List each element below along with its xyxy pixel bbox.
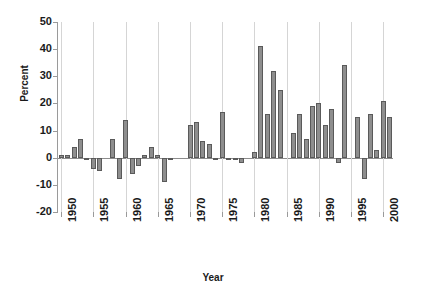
x-axis-tick-mark xyxy=(93,212,94,217)
x-axis-tick-mark xyxy=(190,212,191,217)
bar xyxy=(323,125,328,158)
bar xyxy=(381,101,386,158)
bar xyxy=(252,152,257,157)
bar xyxy=(355,117,360,158)
y-axis-tick-mark xyxy=(53,158,58,159)
y-axis-tick-mark xyxy=(53,22,58,23)
bar xyxy=(117,158,122,180)
bar xyxy=(271,71,276,158)
bar xyxy=(188,125,193,158)
x-axis-tick-mark xyxy=(319,212,320,217)
x-axis-tick-label: 1995 xyxy=(356,198,368,222)
bar xyxy=(329,109,334,158)
bar xyxy=(194,122,199,157)
bar xyxy=(368,114,373,157)
bar xyxy=(155,155,160,158)
bar xyxy=(226,158,231,161)
x-axis-tick-mark xyxy=(287,212,288,217)
bar xyxy=(136,158,141,166)
bar xyxy=(387,117,392,158)
bar xyxy=(291,133,296,157)
bar xyxy=(84,158,89,161)
y-axis-tick-mark xyxy=(53,212,58,213)
y-axis-tick-label: 10 xyxy=(20,125,52,136)
bar xyxy=(233,158,238,161)
x-axis-tick-label: 1960 xyxy=(131,198,143,222)
y-axis-tick-mark xyxy=(53,76,58,77)
bar-chart: Percent 50403020100-10-20 Year 195019551… xyxy=(0,0,426,294)
y-axis-tick-mark xyxy=(53,49,58,50)
y-axis-tick-label: 40 xyxy=(20,43,52,54)
x-axis-tick-label: 1950 xyxy=(66,198,78,222)
x-axis-tick-label: 1965 xyxy=(163,198,175,222)
x-axis-tick-label: 1955 xyxy=(98,198,110,222)
y-axis-tick-mark xyxy=(53,131,58,132)
bar xyxy=(220,112,225,158)
bar xyxy=(91,158,96,169)
x-axis-tick-label: 1970 xyxy=(195,198,207,222)
bar xyxy=(72,147,77,158)
bar xyxy=(316,103,321,157)
bar xyxy=(97,158,102,172)
gridline-vertical xyxy=(126,22,127,212)
y-axis-tick-label: -20 xyxy=(20,206,52,217)
y-axis-tick-mark xyxy=(53,185,58,186)
bar xyxy=(362,158,367,180)
x-axis-tick-label: 2000 xyxy=(388,198,400,222)
bar xyxy=(59,155,64,158)
x-axis-title: Year xyxy=(0,272,426,283)
gridline-vertical xyxy=(158,22,159,212)
bar xyxy=(162,158,167,182)
x-axis-tick-label: 1985 xyxy=(292,198,304,222)
plot-area xyxy=(58,22,393,212)
x-axis-tick-mark xyxy=(254,212,255,217)
bar xyxy=(213,158,218,161)
gridline-vertical xyxy=(254,22,255,212)
bar xyxy=(65,155,70,158)
bar xyxy=(258,46,263,157)
gridline-vertical xyxy=(287,22,288,212)
bar xyxy=(142,155,147,158)
bar xyxy=(278,90,283,158)
y-axis-tick-label: 0 xyxy=(20,152,52,163)
x-axis-tick-mark xyxy=(222,212,223,217)
bar xyxy=(149,147,154,158)
bar xyxy=(336,158,341,163)
bar xyxy=(374,150,379,158)
bar xyxy=(168,158,173,161)
bar xyxy=(130,158,135,174)
x-axis-tick-label: 1975 xyxy=(227,198,239,222)
y-axis-tick-mark xyxy=(53,103,58,104)
y-axis-tick-label: 50 xyxy=(20,16,52,27)
bar xyxy=(110,139,115,158)
bar xyxy=(123,120,128,158)
bar xyxy=(207,144,212,158)
bar xyxy=(310,106,315,158)
bar xyxy=(297,114,302,157)
bar xyxy=(200,141,205,157)
bar xyxy=(78,139,83,158)
x-axis-tick-mark xyxy=(126,212,127,217)
y-axis-tick-label: 30 xyxy=(20,70,52,81)
bar xyxy=(265,114,270,157)
x-axis-tick-mark xyxy=(351,212,352,217)
x-axis-tick-mark xyxy=(383,212,384,217)
x-axis-tick-label: 1980 xyxy=(259,198,271,222)
y-axis-tick-labels: 50403020100-10-20 xyxy=(14,0,52,294)
x-axis-tick-mark xyxy=(158,212,159,217)
x-axis-tick-label: 1990 xyxy=(324,198,336,222)
gridline-vertical xyxy=(190,22,191,212)
x-axis-tick-mark xyxy=(61,212,62,217)
y-axis-tick-label: -10 xyxy=(20,179,52,190)
gridline-vertical xyxy=(61,22,62,212)
bar xyxy=(304,139,309,158)
bar xyxy=(342,65,347,157)
gridline-vertical xyxy=(93,22,94,212)
bar xyxy=(239,158,244,163)
gridline-vertical xyxy=(351,22,352,212)
y-axis-tick-label: 20 xyxy=(20,97,52,108)
